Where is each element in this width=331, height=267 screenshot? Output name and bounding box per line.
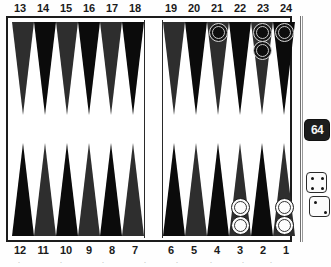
top-point-labels: 13 14 15 16 17 18 19 20 21 22 23 24 xyxy=(0,1,296,15)
point-label-21: 21 xyxy=(208,1,226,15)
point-21[interactable] xyxy=(207,22,229,115)
point-4[interactable] xyxy=(207,143,229,236)
point-22[interactable] xyxy=(229,22,251,115)
point-label-24: 24 xyxy=(277,1,295,15)
point-label-9: 9 xyxy=(80,243,98,257)
point-label-17: 17 xyxy=(103,1,121,15)
point-label-15: 15 xyxy=(57,1,75,15)
quadrant-bottom-left xyxy=(12,143,144,236)
triangle-dark xyxy=(122,143,144,236)
point-18[interactable] xyxy=(122,22,144,115)
point-label-11: 11 xyxy=(34,243,52,257)
checker-white[interactable] xyxy=(275,198,294,217)
point-label-10: 10 xyxy=(57,243,75,257)
triangle-dark xyxy=(78,143,100,236)
point-23[interactable] xyxy=(251,22,273,115)
side-panel: 64 xyxy=(299,16,331,242)
triangle-black xyxy=(122,22,144,115)
point-label-6: 6 xyxy=(162,243,180,257)
point-label-12: 12 xyxy=(11,243,29,257)
ghost-mark: · xyxy=(56,258,66,267)
triangle-dark xyxy=(12,22,34,115)
point-label-23: 23 xyxy=(254,1,272,15)
triangle-black xyxy=(163,143,185,236)
triangle-black xyxy=(207,143,229,236)
triangle-black xyxy=(78,22,100,115)
board-inner xyxy=(10,20,288,238)
point-14[interactable] xyxy=(34,22,56,115)
ghost-mark: · xyxy=(266,258,276,267)
doubling-cube-value: 64 xyxy=(311,124,323,136)
ghost-mark: · xyxy=(206,258,216,267)
die-pip xyxy=(321,177,324,180)
point-label-4: 4 xyxy=(208,243,226,257)
point-label-2: 2 xyxy=(254,243,272,257)
point-2[interactable] xyxy=(251,143,273,236)
die-pip xyxy=(311,177,314,180)
ghost-mark: · xyxy=(14,258,24,267)
die-two[interactable] xyxy=(309,196,330,217)
triangle-dark xyxy=(34,143,56,236)
checker-black[interactable] xyxy=(275,23,294,42)
triangle-dark xyxy=(100,22,122,115)
checker-ring xyxy=(256,44,269,57)
bottom-point-labels: 12 11 10 9 8 7 6 5 4 3 2 1 xyxy=(0,243,296,257)
point-label-19: 19 xyxy=(162,1,180,15)
point-13[interactable] xyxy=(12,22,34,115)
point-3[interactable] xyxy=(229,143,251,236)
die-one[interactable] xyxy=(306,172,327,193)
die-pip xyxy=(321,187,324,190)
point-label-20: 20 xyxy=(185,1,203,15)
ghost-mark: · xyxy=(98,258,108,267)
triangle-dark xyxy=(185,143,207,236)
point-label-1: 1 xyxy=(277,243,295,257)
ghost-mark: · xyxy=(238,258,248,267)
point-6[interactable] xyxy=(163,143,185,236)
triangle-black xyxy=(12,143,34,236)
point-17[interactable] xyxy=(100,22,122,115)
point-19[interactable] xyxy=(163,22,185,115)
point-label-14: 14 xyxy=(34,1,52,15)
ghost-mark: · xyxy=(172,258,182,267)
point-9[interactable] xyxy=(78,143,100,236)
triangle-black xyxy=(34,22,56,115)
point-12[interactable] xyxy=(12,143,34,236)
die-pip xyxy=(311,187,314,190)
point-24[interactable] xyxy=(273,22,295,115)
point-16[interactable] xyxy=(78,22,100,115)
point-label-7: 7 xyxy=(126,243,144,257)
board-frame xyxy=(6,16,292,242)
die-pip xyxy=(314,201,317,204)
quadrant-top-right xyxy=(163,22,295,115)
quadrant-top-left xyxy=(12,22,144,115)
panel-divider xyxy=(300,16,303,242)
checker-white[interactable] xyxy=(275,216,294,235)
quadrant-bottom-right xyxy=(163,143,295,236)
point-label-22: 22 xyxy=(231,1,249,15)
checker-ring xyxy=(234,219,247,232)
point-7[interactable] xyxy=(122,143,144,236)
point-1[interactable] xyxy=(273,143,295,236)
bar[interactable] xyxy=(144,20,163,238)
point-15[interactable] xyxy=(56,22,78,115)
point-label-8: 8 xyxy=(103,243,121,257)
checker-ring xyxy=(212,26,225,39)
point-10[interactable] xyxy=(56,143,78,236)
point-8[interactable] xyxy=(100,143,122,236)
checker-black[interactable] xyxy=(209,23,228,42)
checker-white[interactable] xyxy=(231,198,250,217)
point-20[interactable] xyxy=(185,22,207,115)
checker-ring xyxy=(278,219,291,232)
doubling-cube[interactable]: 64 xyxy=(305,120,329,140)
triangle-dark xyxy=(56,22,78,115)
point-label-18: 18 xyxy=(126,1,144,15)
checker-white[interactable] xyxy=(231,216,250,235)
point-label-3: 3 xyxy=(231,243,249,257)
point-5[interactable] xyxy=(185,143,207,236)
checker-black[interactable] xyxy=(253,23,272,42)
point-11[interactable] xyxy=(34,143,56,236)
point-label-5: 5 xyxy=(185,243,203,257)
backgammon-board-app: 13 14 15 16 17 18 19 20 21 22 23 24 12 1… xyxy=(0,0,331,267)
checker-black[interactable] xyxy=(253,41,272,60)
triangle-black xyxy=(251,143,273,236)
